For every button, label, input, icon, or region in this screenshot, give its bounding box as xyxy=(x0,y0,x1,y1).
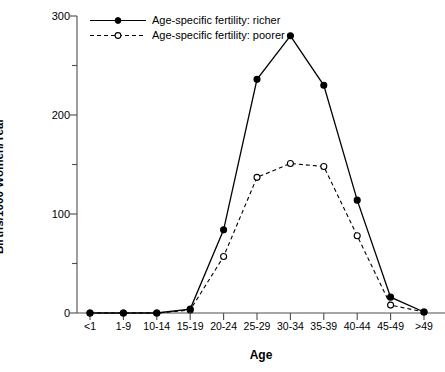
data-point xyxy=(388,302,394,308)
data-point xyxy=(354,197,360,203)
fertility-line-chart: Births/1000 Women/Year 300 200 100 0 <11… xyxy=(0,0,445,372)
x-tick-label: >49 xyxy=(401,320,445,332)
data-point xyxy=(321,163,327,169)
data-point xyxy=(254,76,260,82)
series-poorer xyxy=(87,161,427,316)
data-point xyxy=(221,227,227,233)
legend-item-richer: Age-specific fertility: richer xyxy=(90,13,285,28)
data-point xyxy=(354,233,360,239)
y-tick-label-group: 300 200 100 0 xyxy=(26,0,70,340)
data-point xyxy=(287,33,293,39)
data-point xyxy=(421,309,427,315)
data-point xyxy=(321,82,327,88)
legend-key-dashed-open-circle xyxy=(90,29,146,42)
legend-item-poorer: Age-specific fertility: poorer xyxy=(90,28,285,43)
y-tick-label: 200 xyxy=(30,110,70,121)
data-point xyxy=(388,294,394,300)
series-line xyxy=(90,164,424,313)
y-tick-marks xyxy=(70,16,77,313)
legend-key-solid-filled-circle xyxy=(90,14,146,27)
data-point xyxy=(221,254,227,260)
data-point xyxy=(254,174,260,180)
y-tick-label: 100 xyxy=(30,209,70,220)
data-point xyxy=(120,310,126,316)
x-axis-title: Age xyxy=(77,348,445,362)
legend-label-richer: Age-specific fertility: richer xyxy=(152,13,280,28)
data-point xyxy=(187,306,193,312)
chart-legend: Age-specific fertility: richer Age-speci… xyxy=(90,13,285,43)
legend-label-poorer: Age-specific fertility: poorer xyxy=(152,28,285,43)
data-point xyxy=(154,310,160,316)
y-tick-label: 0 xyxy=(30,308,70,319)
x-tick-marks xyxy=(90,313,424,320)
y-tick-label: 300 xyxy=(30,11,70,22)
data-point xyxy=(287,161,293,167)
x-axis-title-text: Age xyxy=(250,348,273,362)
data-point xyxy=(87,310,93,316)
